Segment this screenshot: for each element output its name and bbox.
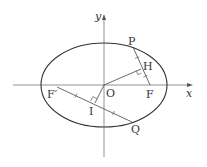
x-axis-label: x bbox=[186, 87, 193, 100]
ellipse-diagram: x y O P H F F′ I Q bbox=[0, 0, 207, 167]
label-f: F bbox=[146, 88, 154, 101]
label-p: P bbox=[128, 35, 136, 48]
label-i: I bbox=[89, 105, 93, 118]
segment-oh bbox=[104, 69, 141, 85]
segment-oi bbox=[95, 85, 104, 103]
label-h: H bbox=[143, 60, 153, 73]
right-angle-mark-h bbox=[136, 71, 141, 75]
label-f-prime: F′ bbox=[47, 88, 58, 101]
label-origin: O bbox=[106, 87, 115, 100]
segment-fprime-q bbox=[57, 87, 132, 122]
y-axis-arrow-icon bbox=[102, 14, 106, 20]
label-q: Q bbox=[131, 123, 140, 136]
y-axis-label: y bbox=[94, 10, 102, 23]
